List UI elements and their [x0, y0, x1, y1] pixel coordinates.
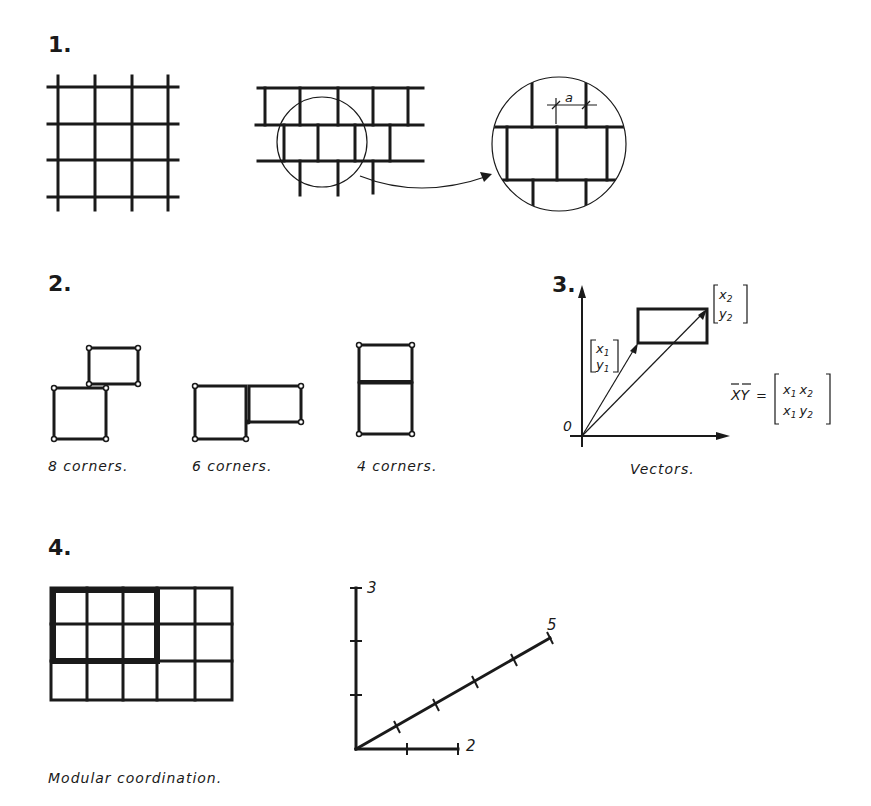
- svg-text:y1: y1: [595, 357, 609, 374]
- eight-corners-example: 8 corners.: [48, 346, 141, 475]
- horizontal-axis-label: 2: [466, 737, 476, 755]
- modular-coordination-diagram: 1.: [0, 0, 871, 806]
- magnify-arrow: [360, 172, 492, 188]
- four-corners-example: 4 corners.: [357, 343, 438, 475]
- dimension-a-label: a: [565, 90, 573, 105]
- vector-equation: XY = x1x2 x1y2: [730, 374, 830, 424]
- vectors: [582, 309, 707, 436]
- figure-2-number: 2.: [48, 271, 72, 296]
- vector-rectangle: [638, 309, 707, 343]
- svg-text:x2: x2: [718, 287, 733, 304]
- brick-pattern: [256, 88, 423, 195]
- caption-vectors: Vectors.: [630, 461, 695, 477]
- module-axes: 3 2 5: [350, 579, 557, 755]
- equation-equals: =: [756, 388, 767, 403]
- vertical-axis-label: 3: [367, 579, 377, 597]
- figure-3: 3. 0 x1 y1 x2 y2: [552, 272, 830, 477]
- figure-1: 1.: [48, 32, 640, 220]
- diagonal-axis-label: 5: [547, 616, 557, 634]
- caption-6-corners: 6 corners.: [192, 458, 272, 474]
- svg-text:y2: y2: [718, 306, 733, 323]
- svg-text:x1: x1: [595, 341, 609, 358]
- figure-1-number: 1.: [48, 32, 72, 57]
- origin-label: 0: [563, 418, 572, 434]
- square-grid: [48, 76, 178, 210]
- figure-3-number: 3.: [552, 272, 576, 297]
- caption-4-corners: 4 corners.: [357, 458, 437, 474]
- modular-grid: [51, 588, 232, 700]
- svg-text:x1x2: x1x2: [782, 382, 813, 399]
- caption-modular-coordination: Modular coordination.: [48, 770, 222, 786]
- six-corners-example: 6 corners.: [192, 384, 304, 475]
- svg-text:x1y2: x1y2: [782, 403, 813, 420]
- figure-2: 2. 8 corners. 6 corners.: [48, 271, 437, 474]
- magnified-detail: a: [480, 70, 640, 220]
- vector-2-matrix: x2 y2: [714, 285, 747, 323]
- vector-1-matrix: x1 y1: [591, 340, 618, 374]
- dimension-a: a: [547, 90, 597, 124]
- figure-4-number: 4.: [48, 535, 72, 560]
- caption-8-corners: 8 corners.: [48, 458, 128, 474]
- equation-lhs: XY: [730, 387, 751, 403]
- figure-4: 4. 3 2: [48, 535, 557, 786]
